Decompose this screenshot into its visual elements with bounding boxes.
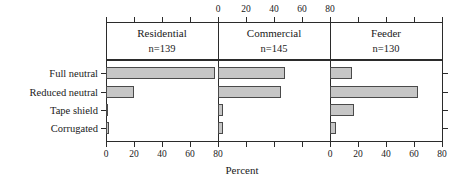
category-tick-mark-right [443,92,448,93]
category-label-reduced-neutral: Reduced neutral [0,87,98,98]
bottom-tick-mark [386,142,387,147]
bottom-tick-mark [190,142,191,147]
panel-n-feeder: n=130 [330,43,442,55]
bottom-right-tick-label-20: 20 [345,149,371,159]
top-tick-label-80: 80 [317,4,343,14]
bar-feeder-tape-shield [330,104,354,116]
category-tick-mark-right [443,73,448,74]
bottom-tick-mark [134,142,135,147]
bottom-left-tick-label-40: 40 [149,149,175,159]
bottom-tick-mark [162,142,163,147]
bottom-tick-mark [358,142,359,147]
panel-n-residential: n=139 [106,43,218,55]
bar-commercial-corrugated [218,122,223,134]
category-tick-mark-right [443,110,448,111]
bottom-tick-mark [302,142,303,147]
bottom-tick-mark [106,142,107,147]
bottom-right-tick-label-0: 0 [317,149,343,159]
panel-title-commercial: Commercial [218,27,330,40]
top-tick-label-0: 0 [205,4,231,14]
strip-right-border [442,22,443,60]
category-label-corrugated: Corrugated [0,123,98,134]
bottom-tick-mark [274,142,275,147]
bottom-right-tick-label-60: 60 [401,149,427,159]
top-tick-label-20: 20 [233,4,259,14]
bottom-right-tick-label-80: 80 [429,149,455,159]
category-label-full-neutral: Full neutral [0,68,98,79]
bottom-right-tick-label-40: 40 [373,149,399,159]
bar-commercial-tape-shield [218,104,223,116]
bar-commercial-full-neutral [218,67,285,79]
category-tick-mark-right [443,128,448,129]
panel-title-feeder: Feeder [330,27,442,40]
bottom-tick-mark [330,142,331,147]
bottom-tick-mark [218,142,219,147]
bar-residential-corrugated [106,122,109,134]
bar-feeder-full-neutral [330,67,352,79]
bottom-tick-mark [442,142,443,147]
bar-commercial-reduced-neutral [218,86,281,98]
top-tick-label-60: 60 [289,4,315,14]
panel-title-residential: Residential [106,27,218,40]
x-axis-title: Percent [186,164,298,177]
bottom-left-tick-label-20: 20 [121,149,147,159]
trellis-bar-chart: 0 20 40 60 80 Residential n=139 Commerci… [0,0,463,183]
bottom-left-tick-label-60: 60 [177,149,203,159]
bottom-tick-mark [414,142,415,147]
bar-feeder-corrugated [330,122,336,134]
plot-top-border [106,60,443,61]
bottom-left-tick-label-0: 0 [93,149,119,159]
top-tick-label-40: 40 [261,4,287,14]
bar-residential-full-neutral [106,67,215,79]
bar-residential-tape-shield [106,104,108,116]
bottom-left-tick-label-80: 80 [205,149,231,159]
bar-feeder-reduced-neutral [330,86,418,98]
bar-residential-reduced-neutral [106,86,134,98]
category-label-tape-shield: Tape shield [0,105,98,116]
panel-n-commercial: n=145 [218,43,330,55]
bottom-tick-mark [246,142,247,147]
strip-top-border [106,22,443,23]
